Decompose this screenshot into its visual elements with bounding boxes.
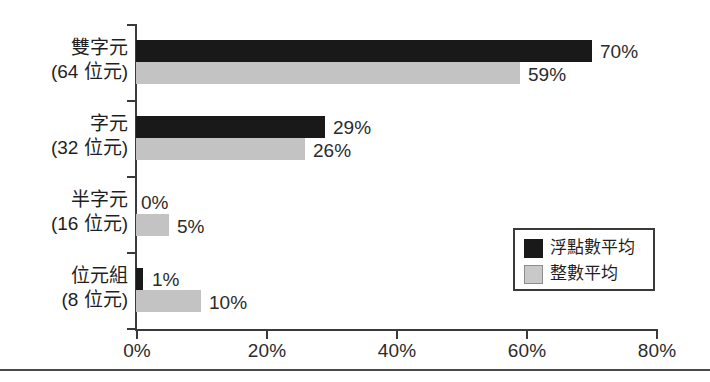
bar-value-float-1: 29% <box>333 118 371 138</box>
category-label-2-line2: (16 位元) <box>0 212 128 236</box>
bar-integer-2 <box>136 214 169 236</box>
category-label-1: 字元 (32 位元) <box>0 112 128 160</box>
bottom-divider <box>0 369 710 371</box>
category-label-0-line2: (64 位元) <box>0 60 128 84</box>
bar-float-3 <box>136 268 143 290</box>
bar-value-float-3: 1% <box>152 270 179 290</box>
category-label-3-line1: 位元組 <box>0 264 128 288</box>
category-label-0: 雙字元 (64 位元) <box>0 36 128 84</box>
y-tick-3 <box>127 252 136 254</box>
x-tick-2 <box>396 331 398 339</box>
x-tick-label-1: 20% <box>248 340 286 362</box>
x-tick-label-4: 80% <box>638 340 676 362</box>
x-tick-1 <box>266 331 268 339</box>
legend-label-integer: 整數平均 <box>550 264 618 284</box>
legend-swatch-integer-icon <box>524 265 543 284</box>
y-tick-1 <box>127 100 136 102</box>
chart-legend: 浮點數平均 整數平均 <box>513 228 655 291</box>
x-tick-4 <box>656 331 658 339</box>
y-tick-2 <box>127 176 136 178</box>
legend-swatch-float-icon <box>524 239 543 258</box>
category-label-3-line2: (8 位元) <box>0 288 128 312</box>
x-tick-label-3: 60% <box>508 340 546 362</box>
x-tick-label-2: 40% <box>378 340 416 362</box>
bar-integer-3 <box>136 290 201 312</box>
bar-float-0 <box>136 40 592 62</box>
category-label-3: 位元組 (8 位元) <box>0 264 128 312</box>
category-label-1-line1: 字元 <box>0 112 128 136</box>
category-label-0-line1: 雙字元 <box>0 36 128 60</box>
category-label-2-line1: 半字元 <box>0 188 128 212</box>
bar-float-1 <box>136 116 325 138</box>
bar-value-integer-0: 59% <box>528 65 566 85</box>
category-label-2: 半字元 (16 位元) <box>0 188 128 236</box>
bar-value-float-0: 70% <box>600 42 638 62</box>
legend-item-float: 浮點數平均 <box>524 235 653 261</box>
x-tick-3 <box>526 331 528 339</box>
bar-integer-0 <box>136 62 520 84</box>
bar-integer-1 <box>136 138 305 160</box>
legend-label-float: 浮點數平均 <box>550 238 635 258</box>
y-tick-0 <box>127 24 136 26</box>
y-tick-4 <box>127 328 136 330</box>
bar-value-integer-3: 10% <box>209 293 247 313</box>
chart-figure: 70% 59% 29% 26% 0% 5% 1% 10% 雙字元 (64 位元)… <box>0 0 710 382</box>
category-label-1-line2: (32 位元) <box>0 136 128 160</box>
bar-value-integer-1: 26% <box>313 141 351 161</box>
bar-value-float-2: 0% <box>141 193 168 213</box>
x-tick-0 <box>136 331 138 339</box>
x-tick-label-0: 0% <box>123 340 151 362</box>
bar-value-integer-2: 5% <box>177 217 204 237</box>
legend-item-integer: 整數平均 <box>524 261 653 287</box>
